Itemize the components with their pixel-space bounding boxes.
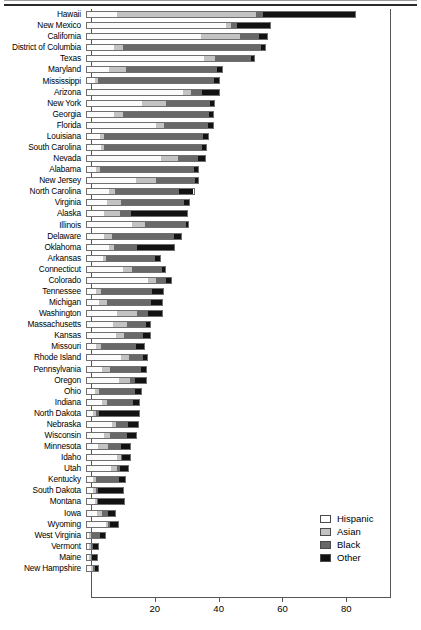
stacked-bar [86,432,137,439]
bar-segment-asian [183,90,191,95]
bar-segment-asian [104,211,120,216]
row-label: Ohio [0,387,86,396]
bar-segment-other [98,488,124,493]
bar-segment-hispanic [87,355,121,360]
stacked-bar [86,22,271,29]
bar-segment-hispanic [87,23,226,28]
row-label: Connecticut [0,265,86,274]
bar-row: Georgia [0,109,421,120]
row-label: Kansas [0,331,86,340]
stacked-bar [86,543,99,550]
bar-segment-asian [116,333,124,338]
bar-segment-asian [201,34,240,39]
bar-segment-black [156,178,195,183]
stacked-bar [86,388,142,395]
bar-segment-other [136,344,144,349]
bar-segment-black [145,222,186,227]
bar-area [86,164,421,175]
stacked-bar [86,554,98,561]
row-label: Alabama [0,165,86,174]
bar-area [86,64,421,75]
row-label: Florida [0,121,86,130]
stacked-bar [86,188,195,195]
bar-row: Florida [0,120,421,131]
bar-segment-black [106,256,156,261]
row-label: Oklahoma [0,243,86,252]
bar-segment-other [93,544,98,549]
bar-row: Michigan [0,297,421,308]
bar-segment-black [215,56,251,61]
bar-segment-asian [109,67,126,72]
bar-area [86,496,421,507]
bar-row: Idaho [0,452,421,463]
row-label: Wyoming [0,520,86,529]
x-tick [346,598,347,602]
bar-segment-hispanic [87,156,161,161]
bar-segment-black [114,245,137,250]
row-label: Arkansas [0,254,86,263]
bar-row: California [0,31,421,42]
stacked-bar [86,199,190,206]
bar-area [86,142,421,153]
row-label: California [0,32,86,41]
row-label: Louisiana [0,132,86,141]
bar-row: Tennessee [0,286,421,297]
stacked-bar [86,487,124,494]
bar-area [86,53,421,64]
bar-row: Ohio [0,386,421,397]
row-label: Michigan [0,298,86,307]
bar-segment-other [122,455,130,460]
bar-segment-hispanic [87,267,123,272]
bar-segment-other [208,123,213,128]
bar-segment-asian [98,444,109,449]
x-tick [155,598,156,602]
bar-area [86,264,421,275]
bar-row: Texas [0,53,421,64]
row-label: North Carolina [0,187,86,196]
x-tick-label: 40 [213,603,224,614]
bar-segment-hispanic [87,56,204,61]
bar-segment-black [115,189,179,194]
header-rule [4,4,417,6]
bar-row: Arkansas [0,253,421,264]
bar-segment-hispanic [87,34,201,39]
bar-segment-asian [117,12,256,17]
stacked-bar [86,55,255,62]
row-label: Washington [0,309,86,318]
bar-segment-other [261,45,266,50]
bar-segment-other [166,278,171,283]
stacked-bar [86,133,209,140]
bar-row: South Carolina [0,142,421,153]
bar-segment-hispanic [87,433,104,438]
bar-segment-hispanic [87,367,102,372]
bar-row: Louisiana [0,131,421,142]
bar-segment-other [119,477,125,482]
bar-row: Hawaii [0,9,421,20]
stacked-bar [86,443,131,450]
row-label: Delaware [0,232,86,241]
bar-area [86,208,421,219]
bar-segment-hispanic [87,145,101,150]
bar-row: Nebraska [0,419,421,430]
bar-area [86,242,421,253]
bar-segment-other [133,400,139,405]
bar-segment-other [98,499,124,504]
bar-row: Delaware [0,231,421,242]
bar-row: Minnesota [0,441,421,452]
row-label: Georgia [0,110,86,119]
bar-segment-asian [107,200,121,205]
bar-segment-other [217,67,222,72]
bar-rows: HawaiiNew MexicoCaliforniaDistrict of Co… [0,9,421,574]
bar-segment-asian [156,123,164,128]
bar-area [86,98,421,109]
bar-area [86,197,421,208]
bar-segment-hispanic [87,311,117,316]
bar-segment-hispanic [87,123,156,128]
stacked-bar [86,100,215,107]
bar-area [86,286,421,297]
bar-area [86,397,421,408]
bar-segment-other [251,56,254,61]
row-label: New Mexico [0,21,86,30]
stacked-bar [86,498,125,505]
bar-segment-other [202,90,219,95]
